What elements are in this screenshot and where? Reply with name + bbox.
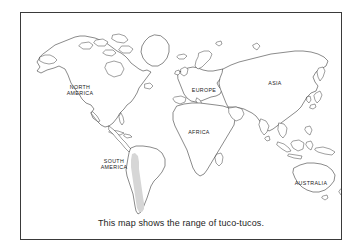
landmass-florida	[119, 113, 124, 125]
landmass-japan-south	[310, 104, 316, 109]
figure-world-map: NORTH AMERICA SOUTH AMERICA EUROPE AFRIC…	[0, 0, 361, 251]
map-label-south-america: SOUTH AMERICA	[93, 158, 135, 171]
landmass-indochina	[278, 123, 287, 138]
world-map-graphic	[21, 13, 341, 218]
landmass-iceland	[177, 54, 187, 59]
map-label-europe: EUROPE	[184, 87, 224, 93]
landmass-korea	[307, 96, 311, 103]
landmass-sri-lanka	[265, 136, 270, 141]
map-label-asia: ASIA	[257, 80, 293, 86]
landmass-sumatra	[277, 142, 291, 152]
landmass-australia	[293, 163, 335, 192]
landmass-iberia	[173, 96, 186, 104]
map-label-australia: AUSTRALIA	[286, 180, 336, 186]
landmass-philippines	[305, 126, 312, 135]
landmass-africa	[173, 103, 235, 176]
landmass-hispaniola	[124, 134, 132, 138]
landmass-novaya-zemlya	[253, 43, 260, 50]
landmass-arctic-island-4	[119, 46, 133, 53]
figure-caption: This map shows the range of tuco-tucos.	[98, 218, 264, 228]
landmass-borneo	[291, 140, 304, 151]
landmass-greenland	[141, 35, 169, 66]
landmass-new-zealand-south	[339, 189, 341, 198]
landmass-sulawesi	[306, 141, 313, 150]
landmass-new-guinea	[315, 147, 335, 155]
figure-frame: NORTH AMERICA SOUTH AMERICA EUROPE AFRIC…	[20, 12, 342, 240]
landmass-tasmania	[322, 195, 328, 200]
map-label-north-america: NORTH AMERICA	[59, 84, 101, 97]
map-label-africa: AFRICA	[179, 129, 219, 135]
caption-container: This map shows the range of tuco-tucos.	[21, 212, 341, 230]
landmass-java	[288, 154, 302, 159]
landmass-arctic-island-1	[112, 34, 128, 43]
landmass-scandinavia	[195, 51, 212, 69]
map-area: NORTH AMERICA SOUTH AMERICA EUROPE AFRIC…	[21, 13, 341, 218]
landmass-central-america	[109, 126, 132, 152]
landmass-kamchatka	[317, 67, 325, 81]
landmass-svalbard	[216, 41, 222, 46]
landmass-newfoundland	[145, 83, 153, 89]
landmass-japan	[314, 91, 322, 103]
